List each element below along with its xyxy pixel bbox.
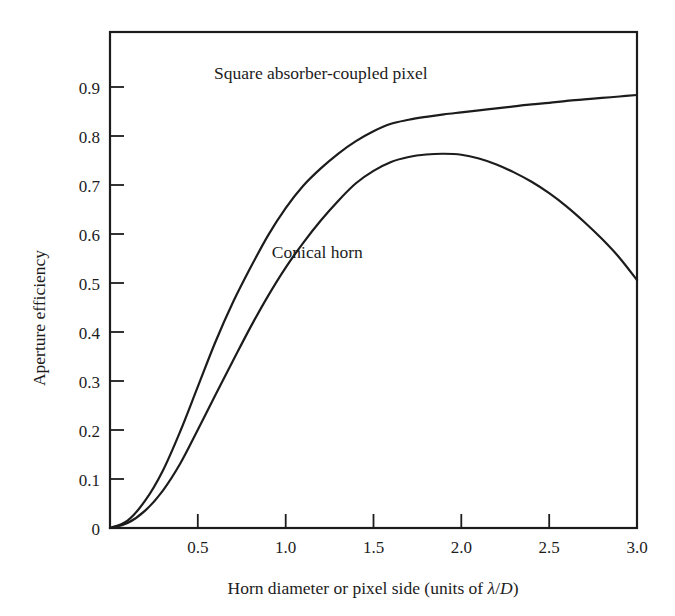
y-tick-label-7: 0.7	[79, 177, 101, 196]
x-tick-label-1.5: 1.5	[363, 538, 384, 557]
x-tick-label-0.5: 0.5	[187, 538, 208, 557]
d-symbol: D	[499, 578, 513, 598]
y-tick-label-8: 0.8	[79, 128, 100, 147]
x-tick-label-2.0: 2.0	[451, 538, 472, 557]
x-axis-title: Horn diameter or pixel side (units of λ/…	[228, 578, 519, 598]
series-label-square-absorber-coupled-pixel: Square absorber-coupled pixel	[214, 63, 428, 83]
x-tick-label-2.5: 2.5	[539, 538, 560, 557]
y-axis-title: Aperture efficiency	[29, 250, 49, 386]
aperture-efficiency-chart: 0 0.1 0.2 0.3 0.4 0.5 0.6 0.7 0.8 0.9 0.…	[0, 0, 675, 616]
series-label-conical-horn: Conical horn	[272, 242, 363, 262]
y-tick-label-9: 0.9	[79, 79, 100, 98]
x-axis-title-prefix: Horn diameter or pixel side (units of	[228, 578, 488, 598]
y-tick-label-4: 0.4	[79, 324, 101, 343]
y-tick-label-6: 0.6	[79, 226, 100, 245]
chart-background	[0, 0, 675, 616]
x-tick-label-3.0: 3.0	[626, 538, 647, 557]
y-tick-label-5: 0.5	[79, 275, 100, 294]
y-tick-label-3: 0.3	[79, 373, 100, 392]
y-tick-label-2: 0.2	[79, 422, 100, 441]
x-tick-label-1.0: 1.0	[275, 538, 296, 557]
y-tick-label-1: 0.1	[79, 471, 100, 490]
y-tick-label-0: 0	[92, 520, 101, 539]
x-axis-title-suffix: )	[513, 578, 519, 598]
